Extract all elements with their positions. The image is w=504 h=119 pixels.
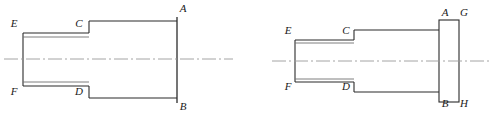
figure-left-svg: E C A F D B (0, 0, 252, 119)
label-H: H (459, 97, 469, 109)
label-F: F (284, 80, 292, 92)
label-B: B (180, 100, 187, 112)
label-F: F (10, 85, 18, 97)
label-C: C (75, 17, 83, 29)
label-C: C (342, 24, 350, 36)
label-E: E (10, 17, 18, 29)
label-D: D (341, 80, 350, 92)
figure-stepped-shaft-without-flange: E C A F D B (0, 0, 252, 119)
label-D: D (74, 85, 83, 97)
label-B: B (442, 97, 449, 109)
label-A: A (179, 2, 187, 14)
small-shaft-wall-thickness-lines (23, 37, 89, 82)
label-G: G (460, 6, 468, 18)
figure-stepped-shaft-with-end-flange: E C A G F D B H (252, 0, 504, 119)
large-diameter-shaft-outline (89, 21, 177, 98)
label-A: A (441, 6, 449, 18)
figure-right-svg: E C A G F D B H (252, 0, 504, 119)
technical-drawing-canvas: E C A F D B (0, 0, 504, 119)
label-E: E (284, 24, 292, 36)
small-diameter-shaft-outline (23, 33, 89, 86)
